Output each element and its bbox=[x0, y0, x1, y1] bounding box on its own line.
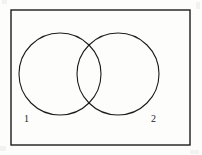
set-circle-2 bbox=[77, 33, 159, 115]
venn-diagram-figure: 1 2 bbox=[0, 0, 202, 155]
set-label-2: 2 bbox=[151, 113, 156, 124]
set-label-1: 1 bbox=[24, 113, 29, 124]
venn-diagram-canvas: 1 2 bbox=[0, 0, 202, 155]
